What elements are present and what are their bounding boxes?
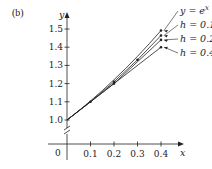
legend-label: h = 0.4 (180, 47, 212, 58)
axes: xy0 (48, 9, 186, 160)
legend-label: y = ex (179, 4, 209, 16)
legend: y = exh = 0.1h = 0.2h = 0.4 (164, 4, 212, 58)
x-axis-label: x (180, 147, 186, 158)
leader-line (164, 11, 178, 30)
y-tick-label: 1.5 (49, 24, 64, 34)
data-point (160, 39, 163, 42)
data-point (160, 34, 163, 37)
axis-break-mark (64, 130, 70, 134)
y-tick-label: 1.0 (49, 115, 64, 125)
series-line (67, 36, 161, 121)
y-axis-label: y (58, 9, 65, 20)
data-point (160, 46, 163, 49)
x-axis-arrow (178, 142, 184, 147)
x-tick-label: 0.3 (130, 149, 145, 159)
legend-label-superscript: x (205, 4, 209, 12)
y-tick-label: 1.3 (49, 60, 64, 70)
leader-arrowhead (164, 30, 168, 33)
series-group (67, 29, 162, 120)
origin-label: 0 (55, 148, 61, 158)
data-point (160, 29, 163, 32)
legend-label: h = 0.1 (180, 19, 212, 30)
x-tick-label: 0.2 (107, 149, 121, 159)
panel-label: (b) (12, 7, 24, 19)
euler-method-chart: (b) xy0 0.10.20.30.41.01.11.21.31.41.5 y… (0, 0, 212, 169)
y-tick-label: 1.4 (49, 42, 64, 52)
y-tick-label: 1.2 (49, 79, 63, 89)
x-tick-label: 0.1 (83, 149, 97, 159)
y-tick-label: 1.1 (49, 97, 63, 107)
series-line (67, 31, 161, 121)
y-axis-arrow (65, 12, 70, 18)
legend-label: h = 0.2 (180, 33, 212, 44)
series-line (67, 47, 161, 120)
x-tick-label: 0.4 (154, 149, 169, 159)
